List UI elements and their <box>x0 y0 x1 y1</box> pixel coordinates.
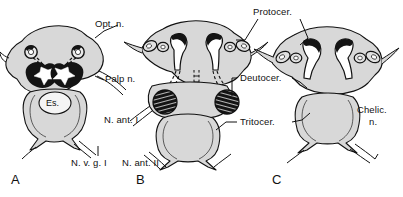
panel-c-chelicera-nerve-tick <box>375 154 378 159</box>
panel-a-right-optic-ganglion-core <box>75 49 80 54</box>
panel-c-tritocerebrum-mass <box>295 93 360 153</box>
panel-b-left-deutocerebral-ganglion <box>153 90 177 114</box>
panel-a-brain-outline <box>6 26 103 94</box>
label-deutocer: Deutocer. <box>240 72 282 83</box>
panel-c-right-wing <box>382 48 399 64</box>
panel-a-left-optic-ganglion-core <box>28 49 33 54</box>
panel-c-left-lower-nerve-root <box>287 150 304 163</box>
label-protocer: Protocer. <box>253 6 292 17</box>
label-n-v-g-i: N. v. g. I <box>71 157 107 168</box>
panel-b-right-deutocerebral-ganglion <box>215 90 239 114</box>
label-palp-n: Palp n. <box>105 73 135 84</box>
panel-a-palp-n-leader <box>95 76 104 80</box>
panel-c-left-inner-ganglion-core <box>294 56 299 60</box>
panel-letter-a: A <box>11 172 20 187</box>
panel-c-chelicera-nerve-root-b <box>350 149 370 163</box>
figure-container: Opt. n. Palp n. N. ant. I N. v. g. I N. … <box>0 0 403 197</box>
panel-b-right-lower-nerve-root <box>214 154 231 167</box>
label-tritocer: Tritocer. <box>240 116 275 127</box>
panel-b-tritocerebrum-mass <box>156 114 220 170</box>
panel-c-left-wing <box>254 49 273 63</box>
panel-b-right-inner-ganglion-core <box>228 45 232 49</box>
panel-letter-c: C <box>272 172 281 187</box>
panel-a-left-bottom-nerve-root <box>22 147 36 159</box>
panel-a-nerve-vg-i-root2 <box>79 141 96 155</box>
panel-letter-b: B <box>136 172 145 187</box>
panel-c-right-inner-ganglion-core <box>358 56 363 60</box>
diagram-canvas <box>0 0 403 197</box>
label-chelic-n-line1: Chelic. <box>357 104 387 115</box>
label-chelic-n-line2: n. <box>369 116 377 127</box>
panel-c-chelicera-nerve-root-a <box>355 144 375 159</box>
panel-b-left-inner-ganglion-core <box>161 45 165 49</box>
panel-b-drawing <box>124 21 268 170</box>
panel-a-nerve-vg-i-root <box>74 144 91 158</box>
label-n-ant-ii: N. ant. II <box>122 157 159 168</box>
panel-b-left-wing <box>124 42 142 53</box>
panel-a-drawing <box>0 25 126 159</box>
label-es: Es. <box>46 98 59 108</box>
label-n-ant-i: N. ant. I <box>104 114 138 125</box>
label-opt-n: Opt. n. <box>95 18 124 29</box>
panel-c-drawing <box>254 27 399 163</box>
